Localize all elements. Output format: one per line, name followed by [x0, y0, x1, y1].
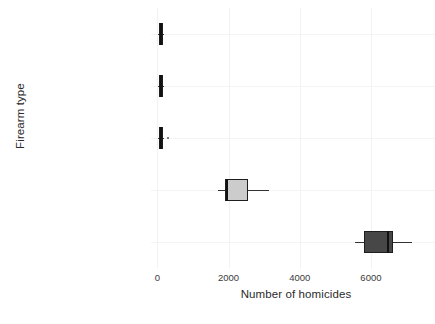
- plot-panel: [151, 8, 435, 268]
- box-plot-chart: Firearm type Number of homicides 0200040…: [0, 0, 435, 324]
- median-line: [226, 179, 228, 201]
- whisker-upper: [393, 242, 412, 243]
- median-line: [160, 23, 162, 45]
- median-line: [160, 127, 162, 149]
- y-axis-title: Firearm type: [14, 56, 26, 176]
- median-line: [160, 75, 162, 97]
- whisker-upper: [248, 190, 269, 191]
- x-tick-label-0: 0: [155, 272, 160, 283]
- x-tick-label-4000: 4000: [289, 272, 310, 283]
- gridline-horizontal-0: [151, 34, 435, 35]
- whisker-lower: [218, 190, 225, 191]
- gridline-horizontal-3: [151, 190, 435, 191]
- median-line: [387, 231, 389, 253]
- gridline-horizontal-2: [151, 138, 435, 139]
- outlier-point: [167, 137, 169, 139]
- gridline-horizontal-1: [151, 86, 435, 87]
- x-tick-label-6000: 6000: [360, 272, 381, 283]
- x-tick-label-2000: 2000: [218, 272, 239, 283]
- whisker-lower: [355, 242, 364, 243]
- box-rect: [225, 179, 248, 201]
- x-axis-title: Number of homicides: [157, 288, 435, 300]
